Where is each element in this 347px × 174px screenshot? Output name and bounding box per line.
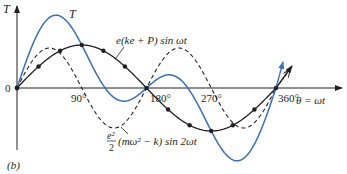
tick-270: 270°	[201, 92, 222, 104]
panel-label: (b)	[7, 159, 20, 172]
first-label-leader	[116, 47, 124, 58]
data-point	[187, 123, 191, 127]
second-curve-coef-num: e²	[107, 130, 115, 141]
torque-diagram: T 0 θ = ωt 90° 180° 270° 360° T e(ke + P…	[0, 0, 347, 174]
x-axis-label: θ = ωt	[296, 94, 326, 106]
data-point	[80, 43, 84, 47]
second-label-leader	[121, 127, 128, 134]
total-curve-label: T	[69, 7, 77, 21]
origin-point	[15, 86, 20, 91]
second-curve-coef-den: 2	[109, 142, 114, 153]
data-point	[123, 64, 127, 68]
second-curve-label: (mω² − k) sin 2ωt	[118, 135, 198, 148]
data-point	[166, 107, 170, 111]
data-point	[252, 107, 256, 111]
data-point	[101, 49, 105, 53]
tick-180: 180°	[150, 92, 171, 104]
origin-label: 0	[5, 82, 11, 94]
data-point	[209, 129, 213, 133]
data-point	[36, 64, 40, 68]
y-axis-label: T	[3, 2, 11, 16]
data-point	[231, 123, 235, 127]
data-point	[144, 86, 148, 90]
first-curve-label: e(ke + P) sin ωt	[116, 34, 188, 47]
tick-90: 90°	[71, 92, 86, 104]
data-point	[58, 49, 62, 53]
tick-360: 360°	[278, 92, 299, 104]
